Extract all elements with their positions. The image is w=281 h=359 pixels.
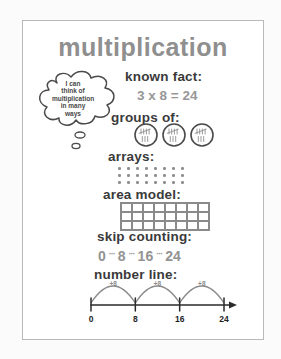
known-fact-label: known fact:: [125, 69, 202, 84]
array-dot: [118, 167, 121, 170]
array-dot: [154, 181, 157, 184]
area-grid-cell: [176, 212, 187, 221]
skip-value: 24: [165, 248, 181, 264]
array-dot: [163, 181, 166, 184]
skip-value: 0: [98, 248, 106, 264]
skip-counting-values: 0···8···16···24: [98, 248, 181, 264]
area-grid-cell: [154, 203, 165, 212]
thought-bubble-line: multiplication: [40, 95, 106, 102]
array-dot: [181, 174, 184, 177]
area-grid-cell: [187, 212, 198, 221]
array-dot: [136, 167, 139, 170]
area-grid-cell: [198, 203, 209, 212]
array-dot: [172, 167, 175, 170]
area-grid-cell: [154, 212, 165, 221]
array-dot: [172, 181, 175, 184]
area-grid-cell: [187, 203, 198, 212]
array-dot: [145, 167, 148, 170]
array-dot: [145, 181, 148, 184]
thought-bubble-line: think of: [40, 87, 106, 94]
array-dot: [136, 181, 139, 184]
array-dot: [118, 181, 121, 184]
area-grid-cell: [143, 212, 154, 221]
thought-bubble: I canthink ofmultiplicationin manyways: [27, 69, 123, 161]
thought-bubble-text: I canthink ofmultiplicationin manyways: [40, 80, 106, 117]
array-dot: [181, 167, 184, 170]
array-dots: [115, 165, 187, 186]
svg-text:0: 0: [89, 314, 94, 324]
area-grid-cell: [143, 203, 154, 212]
area-grid-cell: [121, 203, 132, 212]
tally-circle: [161, 122, 187, 148]
array-dot: [118, 174, 121, 177]
array-dot: [172, 174, 175, 177]
skip-value: 16: [138, 248, 154, 264]
array-dot: [136, 174, 139, 177]
tally-circle: [189, 122, 215, 148]
poster-title: multiplication: [23, 33, 263, 62]
area-grid-cell: [165, 203, 176, 212]
svg-text:24: 24: [219, 314, 229, 324]
array-dot: [163, 174, 166, 177]
array-dot: [154, 174, 157, 177]
number-line-figure: +8+8+8081624: [81, 279, 241, 333]
svg-text:+8: +8: [109, 280, 117, 287]
area-grid-cell: [132, 212, 143, 221]
area-grid-cell: [165, 212, 176, 221]
area-grid-cell: [198, 221, 209, 230]
poster-sheet: multiplication I canthink ofmultiplicati…: [22, 20, 264, 340]
array-dot: [181, 181, 184, 184]
number-line-svg: +8+8+8081624: [81, 279, 241, 329]
area-model-grid: [120, 202, 210, 231]
thought-bubble-line: ways: [40, 110, 106, 117]
arrays-label: arrays:: [108, 149, 154, 164]
groups-row: [133, 122, 215, 148]
skip-separator: ···: [106, 249, 118, 259]
area-grid-cell: [198, 212, 209, 221]
skip-separator: ···: [126, 249, 138, 259]
skip-separator: ···: [153, 249, 165, 259]
area-grid-cell: [121, 212, 132, 221]
thought-bubble-line: in many: [40, 102, 106, 109]
svg-text:8: 8: [133, 314, 138, 324]
svg-text:+8: +8: [154, 280, 162, 287]
known-fact-value: 3 x 8 = 24: [137, 88, 197, 103]
svg-text:+8: +8: [198, 280, 206, 287]
thought-bubble-line: I can: [40, 80, 106, 87]
array-dot: [127, 181, 130, 184]
array-dot: [127, 174, 130, 177]
array-dot: [145, 174, 148, 177]
tally-circle: [133, 122, 159, 148]
array-dot: [154, 167, 157, 170]
area-grid-cell: [132, 203, 143, 212]
area-model-label: area model:: [103, 187, 181, 202]
array-dot: [127, 167, 130, 170]
skip-value: 8: [118, 248, 126, 264]
area-grid-cell: [176, 203, 187, 212]
array-dot: [163, 167, 166, 170]
svg-text:16: 16: [175, 314, 185, 324]
skip-counting-label: skip counting:: [97, 229, 192, 244]
